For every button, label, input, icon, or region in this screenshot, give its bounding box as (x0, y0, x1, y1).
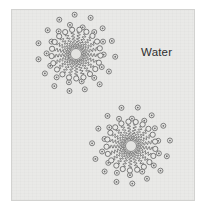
water-molecule-icon (113, 54, 118, 59)
water-molecule-dot (116, 172, 118, 174)
water-molecule-icon (54, 75, 59, 80)
water-molecule-dot (46, 53, 48, 55)
surfactant-head-icon (66, 75, 71, 80)
water-molecule-dot (114, 56, 116, 58)
water-molecule-icon (36, 57, 41, 62)
water-molecule-icon (114, 179, 119, 184)
water-molecule-icon (90, 141, 95, 146)
surfactant-head-icon (74, 76, 79, 81)
surfactant-head-icon (87, 71, 92, 76)
water-molecule-dot (108, 127, 110, 129)
surfactant-head-icon (135, 167, 140, 172)
surfactant-head-icon (105, 137, 110, 142)
water-molecule-icon (44, 51, 49, 56)
water-molecule-dot (47, 29, 49, 31)
water-molecule-dot (108, 71, 110, 73)
water-molecule-icon (167, 138, 172, 143)
water-molecule-dot (82, 27, 84, 29)
water-molecule-dot (166, 155, 168, 157)
water-molecule-dot (154, 127, 156, 129)
water-molecule-dot (101, 151, 103, 153)
water-molecule-dot (129, 174, 131, 176)
water-molecule-icon (152, 126, 157, 131)
surfactant-head-icon (94, 39, 99, 44)
micelle-structures (36, 12, 172, 186)
water-molecule-dot (146, 178, 148, 180)
micelle-diagram (12, 10, 195, 201)
surfactant-head-icon (120, 166, 125, 171)
water-molecule-dot (101, 66, 103, 68)
surfactant-head-icon (57, 34, 62, 39)
water-molecule-icon (164, 154, 169, 159)
surfactant-head-icon (114, 163, 119, 168)
surfactant-head-icon (150, 132, 155, 137)
water-molecule-dot (56, 76, 58, 78)
surfactant-head-icon (141, 164, 146, 169)
surfactant-head-icon (108, 130, 113, 135)
diagram-panel: Water (11, 9, 195, 201)
water-molecule-dot (74, 14, 76, 16)
surfactant-head-icon (70, 27, 75, 32)
water-molecule-dot (107, 115, 109, 117)
surfactant-head-icon (51, 61, 56, 66)
surfactant-head-icon (49, 46, 54, 51)
water-molecule-dot (49, 65, 51, 67)
surfactant-head-icon (54, 67, 59, 72)
surfactant-head-icon (77, 27, 82, 32)
water-molecule-dot (131, 118, 133, 120)
surfactant-head-icon (49, 53, 54, 58)
water-molecule-dot (84, 88, 86, 90)
surfactant-head-icon (152, 139, 157, 144)
water-molecule-dot (143, 120, 145, 122)
water-molecule-icon (42, 71, 47, 76)
micelle-core (126, 141, 137, 152)
water-molecule-icon (119, 105, 124, 110)
surfactant-head-icon (52, 39, 57, 44)
surfactant-head-icon (60, 72, 65, 77)
water-molecule-icon (82, 87, 87, 92)
water-molecule-icon (45, 28, 50, 33)
water-molecule-icon (93, 156, 98, 161)
water-molecule-dot (53, 85, 55, 87)
water-molecule-dot (97, 128, 99, 130)
micelle-top-left (36, 12, 118, 93)
water-molecule-icon (56, 29, 61, 34)
water-molecule-icon (100, 149, 105, 154)
water-molecule-dot (44, 73, 46, 75)
water-molecule-dot (93, 31, 95, 33)
surfactant-head-icon (84, 29, 89, 34)
water-molecule-dot (160, 170, 162, 172)
water-molecule-icon (97, 82, 102, 87)
surfactant-head-icon (81, 75, 86, 80)
water-molecule-dot (91, 142, 93, 144)
water-molecule-dot (158, 152, 160, 154)
water-molecule-dot (141, 171, 143, 173)
water-molecule-dot (93, 77, 95, 79)
water-molecule-dot (111, 40, 113, 42)
water-molecule-dot (99, 83, 101, 85)
water-molecule-dot (162, 125, 164, 127)
surfactant-head-icon (109, 158, 114, 163)
surfactant-head-icon (63, 29, 68, 34)
surfactant-head-icon (140, 122, 145, 127)
water-molecule-icon (140, 169, 145, 174)
water-molecule-dot (131, 183, 133, 185)
water-molecule-dot (102, 41, 104, 43)
water-molecule-dot (116, 181, 118, 183)
water-molecule-dot (58, 19, 60, 21)
water-molecule-dot (118, 118, 120, 120)
water-molecule-icon (102, 169, 107, 174)
water-molecule-icon (101, 39, 106, 44)
water-molecule-icon (130, 181, 135, 186)
surfactant-head-icon (98, 53, 103, 58)
water-molecule-dot (153, 165, 155, 167)
water-molecule-dot (104, 171, 106, 173)
water-molecule-icon (149, 113, 154, 118)
water-molecule-dot (69, 24, 71, 26)
water-molecule-dot (121, 107, 123, 109)
surfactant-head-icon (113, 125, 118, 130)
water-molecule-dot (95, 158, 97, 160)
surfactant-head-icon (153, 146, 158, 151)
figure-root: Water (0, 0, 206, 211)
surfactant-head-icon (97, 46, 102, 51)
